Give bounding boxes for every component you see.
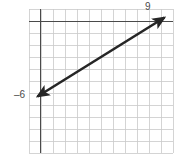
x-intercept-label: –6 (14, 90, 25, 100)
graph-screenshot: 9 –6 (0, 0, 182, 165)
coordinate-plane-graph (0, 0, 182, 165)
y-intercept-label: 9 (145, 2, 151, 12)
